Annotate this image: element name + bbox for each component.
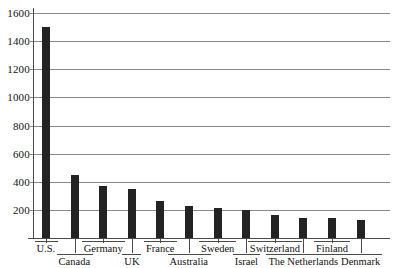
x-axis-label-rule [339,254,382,255]
x-axis-label-rule [144,241,177,242]
x-axis-label-canada: Canada [59,256,91,267]
x-axis-label-rule [122,254,141,255]
x-axis-tick [361,238,362,253]
x-axis-label-rule [35,241,58,242]
x-axis-label-sweden: Sweden [201,243,234,254]
x-axis-tick [189,238,190,253]
x-axis-label-rule [82,241,125,242]
x-axis-label-australia: Australia [170,256,209,267]
x-axis-tick [75,238,76,253]
x-axis-label-switzerland: Switzerland [250,243,300,254]
x-axis-label-uk: UK [124,256,139,267]
x-axis-label-france: France [146,243,175,254]
x-axis-label-germany: Germany [84,243,123,254]
x-axis-label-denmark: Denmark [341,256,380,267]
x-axis-ticks-and-labels: U.S.CanadaGermanyUKFranceAustraliaSweden… [0,0,397,268]
x-axis-label-rule [266,254,340,255]
x-axis-label-rule [233,254,260,255]
x-axis-label-rule [57,254,93,255]
x-axis-label-rule [314,241,350,242]
x-axis-label-rule [248,241,302,242]
x-axis-label-rule [199,241,236,242]
x-axis-label-the-netherlands: The Netherlands [268,256,338,267]
bar-chart: 2004006008001000120014001600 U.S.CanadaG… [0,0,397,268]
x-axis-tick [132,238,133,253]
x-axis-tick [303,238,304,253]
x-axis-label-rule [168,254,211,255]
x-axis-label-israel: Israel [235,256,258,267]
x-axis-label-u-s: U.S. [37,243,56,254]
x-axis-label-finland: Finland [316,243,348,254]
